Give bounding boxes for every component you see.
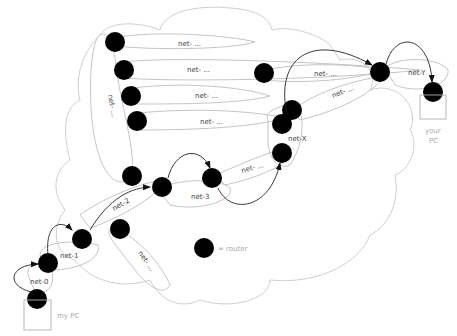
svg-text:net-2: net-2 <box>111 197 131 213</box>
svg-text:net-X: net-X <box>288 135 307 143</box>
net-top3: net- ... <box>133 85 270 104</box>
svg-text:net- ...: net- ... <box>240 161 264 175</box>
router-legend: = router <box>218 245 248 253</box>
net-top1: net- ... <box>115 34 255 49</box>
svg-text:net- ...: net- ... <box>314 70 337 78</box>
network-diagram: net- ... net- ... net- ... net- ... net-… <box>0 0 457 336</box>
svg-text:net- ...: net- ... <box>195 92 218 100</box>
net-vert: net- ... <box>90 34 132 182</box>
svg-text:net- ...: net- ... <box>331 84 355 100</box>
svg-text:net- ...: net- ... <box>187 66 210 74</box>
internet-cloud <box>56 7 414 304</box>
svg-text:net-3: net-3 <box>191 193 209 201</box>
net-r2: net- ... <box>292 76 385 120</box>
svg-text:net- ...: net- ... <box>136 250 156 273</box>
svg-text:net-Y: net-Y <box>408 69 426 77</box>
net-top4: net- ... <box>138 110 285 130</box>
svg-text:net-1: net-1 <box>60 252 78 260</box>
my-pc-label: my PC <box>57 312 79 320</box>
svg-text:net- ...: net- ... <box>200 118 223 126</box>
svg-text:net- ...: net- ... <box>106 94 118 118</box>
svg-text:net-0: net-0 <box>30 278 48 286</box>
your-pc-label: your <box>425 127 441 135</box>
svg-text:net- ...: net- ... <box>178 40 201 48</box>
svg-text:PC: PC <box>429 137 438 145</box>
router-icon <box>27 32 443 309</box>
